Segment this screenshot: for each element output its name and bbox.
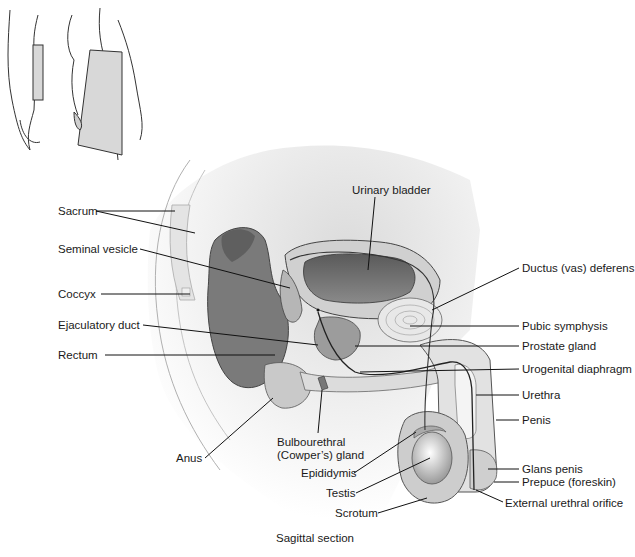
label-urethra: Urethra	[522, 389, 560, 402]
label-anus: Anus	[176, 452, 202, 465]
label-seminal-vesicle: Seminal vesicle	[58, 243, 138, 256]
label-prostate-gland: Prostate gland	[522, 340, 596, 353]
label-urinary-bladder: Urinary bladder	[352, 184, 431, 197]
label-prepuce: Prepuce (foreskin)	[522, 476, 616, 489]
label-scrotum: Scrotum	[335, 507, 378, 520]
bladder-lumen	[304, 254, 415, 303]
label-ductus-deferens: Ductus (vas) deferens	[522, 262, 635, 275]
anatomy-diagram: Sacrum Seminal vesicle Coccyx Ejaculator…	[0, 0, 635, 557]
label-bulbourethral-line1: Bulbourethral	[277, 436, 345, 449]
label-penis: Penis	[522, 414, 551, 427]
inset-figure	[8, 8, 142, 160]
label-coccyx: Coccyx	[58, 288, 96, 301]
label-pubic-symphysis: Pubic symphysis	[522, 320, 608, 333]
label-ejaculatory-duct: Ejaculatory duct	[58, 319, 140, 332]
label-glans-penis: Glans penis	[522, 463, 583, 476]
testis-shape	[412, 432, 452, 484]
figure-caption: Sagittal section	[276, 532, 354, 544]
label-sacrum: Sacrum	[58, 205, 98, 218]
label-bulbourethral-line2: (Cowper’s) gland	[277, 449, 364, 462]
label-epididymis: Epididymis	[301, 467, 357, 480]
label-urogenital-diaphragm: Urogenital diaphragm	[522, 363, 632, 376]
label-testis: Testis	[326, 487, 355, 500]
label-external-urethral-orifice: External urethral orifice	[505, 497, 623, 510]
label-rectum: Rectum	[58, 349, 98, 362]
